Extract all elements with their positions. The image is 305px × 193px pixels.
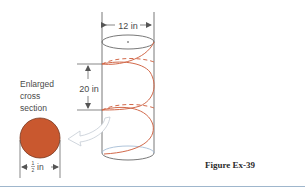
- helix-cylinder-diagram: 12 in 20 in Enlarged cross section 1 2 i…: [0, 0, 305, 193]
- enlarged-label-line2: cross: [20, 91, 40, 101]
- enlarged-label-line1: Enlarged: [20, 79, 54, 89]
- enlarged-label-line3: section: [20, 103, 47, 113]
- pitch-label: 20 in: [79, 84, 99, 94]
- pointer-arrow: [68, 117, 110, 146]
- helix-wire: [102, 42, 154, 154]
- figure-ex-39: 12 in 20 in Enlarged cross section 1 2 i…: [0, 0, 305, 193]
- diameter-label: 12 in: [118, 21, 138, 31]
- wire-width-unit: in: [37, 162, 44, 172]
- wire-width-denominator: 2: [32, 167, 35, 173]
- wire-width-numerator: 1: [32, 160, 35, 166]
- cross-section-circle: [20, 118, 60, 158]
- cylinder: [102, 12, 154, 160]
- figure-caption: Figure Ex-39: [205, 160, 256, 170]
